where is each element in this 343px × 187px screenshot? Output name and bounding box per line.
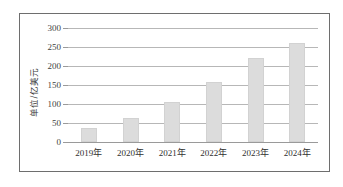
x-tick-label-2023年: 2023年 (242, 146, 269, 159)
x-tick-label-2024年: 2024年 (284, 146, 311, 159)
y-tick-label-50: 50 (52, 118, 61, 128)
y-tick-label-100: 100 (48, 99, 62, 109)
gridline-0 (68, 142, 318, 143)
x-tick-label-2022年: 2022年 (200, 146, 227, 159)
bar-2019年 (81, 128, 97, 142)
bar-series (68, 28, 318, 142)
bar-2022年 (206, 82, 222, 142)
y-tick-0 (63, 142, 68, 143)
y-axis-title-text: 单位/亿美元 (30, 67, 39, 117)
y-tick-label-250: 250 (48, 42, 62, 52)
bar-2020年 (123, 118, 139, 142)
plot-area: 050100150200250300 (68, 28, 318, 142)
bar-2023年 (248, 58, 264, 142)
x-axis-labels: 2019年2020年2021年2022年2023年2024年 (68, 146, 318, 162)
bar-2021年 (164, 102, 180, 142)
y-tick-label-300: 300 (48, 23, 62, 33)
y-axis-title: 单位/亿美元 (27, 52, 41, 132)
y-tick-label-150: 150 (48, 80, 62, 90)
y-tick-label-0: 0 (57, 137, 62, 147)
bar-2024年 (289, 43, 305, 142)
chart-figure: 单位/亿美元 050100150200250300 2019年2020年2021… (0, 0, 343, 187)
x-tick-label-2020年: 2020年 (117, 146, 144, 159)
x-tick-label-2021年: 2021年 (159, 146, 186, 159)
y-tick-label-200: 200 (48, 61, 62, 71)
x-tick-label-2019年: 2019年 (75, 146, 102, 159)
